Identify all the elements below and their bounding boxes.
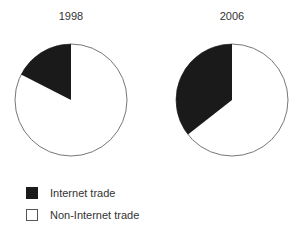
legend: Internet trade Non-Internet trade (26, 182, 139, 226)
legend-item-non-internet: Non-Internet trade (26, 204, 139, 226)
pie-chart-2006 (176, 44, 288, 156)
legend-label: Non-Internet trade (50, 209, 139, 221)
pie-chart-1998 (15, 44, 127, 156)
non-internet-swatch-icon (26, 209, 38, 221)
legend-label: Internet trade (50, 187, 115, 199)
internet-swatch-icon (26, 187, 38, 199)
legend-item-internet: Internet trade (26, 182, 139, 204)
